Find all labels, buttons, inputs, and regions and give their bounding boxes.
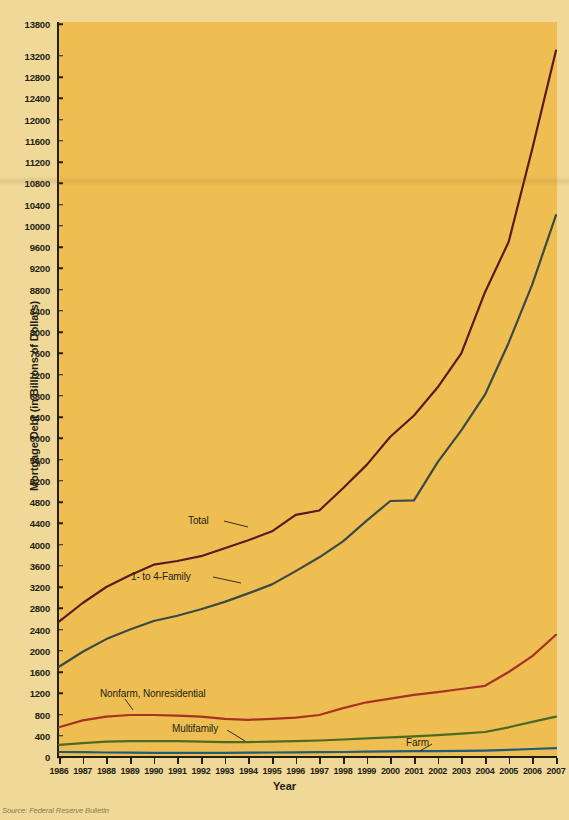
series-label-total: Total xyxy=(188,515,209,526)
mortgage-debt-line-chart: 0400800120016002000240028003200360040004… xyxy=(0,0,569,820)
y-axis-title: Mortgage Debt (in Billions of Dollars) xyxy=(28,266,40,526)
series-line-multifamily xyxy=(59,717,556,745)
series-line-farm xyxy=(59,748,556,753)
series-lines xyxy=(0,0,569,820)
x-axis-title: Year xyxy=(0,780,569,792)
series-label-one-to-four-family: 1- to 4-Family xyxy=(131,571,191,582)
series-label-farm: Farm xyxy=(406,737,429,748)
source-caption: Source: Federal Reserve Bulletin xyxy=(2,806,109,815)
series-line-nonfarm-nonresidential xyxy=(59,635,556,728)
series-label-nonfarm-nonresidential: Nonfarm, Nonresidential xyxy=(100,688,206,699)
series-line-1-to-4-family xyxy=(59,215,556,667)
series-label-multifamily: Multifamily xyxy=(172,723,218,734)
series-line-total xyxy=(59,51,556,622)
